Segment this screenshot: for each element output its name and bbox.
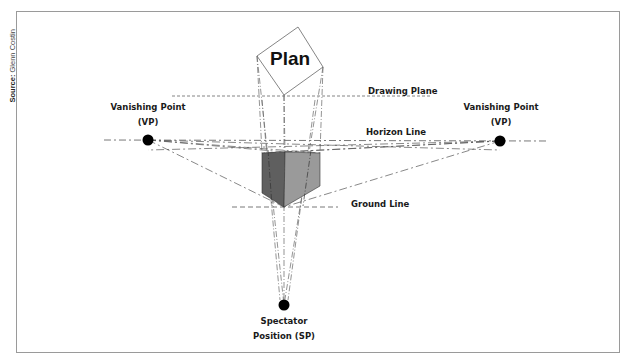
- vanishing-point-left-label: Vanishing Point (VP): [108, 100, 188, 130]
- vanishing-point-left: [143, 135, 154, 146]
- vanishing-point-right-label: Vanishing Point (VP): [461, 100, 541, 130]
- cube-left-face: [262, 152, 285, 207]
- plan-label: Plan: [270, 48, 310, 70]
- perspective-diagram: [0, 0, 628, 361]
- horizon-line-label: Horizon Line: [366, 125, 426, 140]
- spectator-position-point: [279, 300, 290, 311]
- vanishing-point-right: [495, 136, 506, 147]
- drawing-plane-label: Drawing Plane: [368, 84, 438, 99]
- ground-line-label: Ground Line: [351, 197, 409, 212]
- spectator-position-label: Spectator Position (SP): [244, 314, 324, 344]
